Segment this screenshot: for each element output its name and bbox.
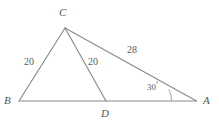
length-label-CA: 28 [127, 45, 137, 55]
vertex-label-D: D [101, 108, 109, 119]
degree-symbol: ° [156, 81, 158, 87]
vertex-label-C: C [59, 7, 66, 18]
vertex-label-B: B [4, 95, 11, 106]
vertex-label-A: A [203, 95, 210, 106]
geometry-figure: C B D A 20 20 28 30° [0, 0, 219, 125]
angle-value: 30 [147, 82, 156, 92]
length-label-CD: 20 [88, 57, 98, 67]
angle-arc-A [169, 89, 172, 101]
length-label-BC: 20 [24, 57, 34, 67]
segment-CA [65, 28, 197, 101]
angle-label-A: 30° [147, 83, 158, 92]
